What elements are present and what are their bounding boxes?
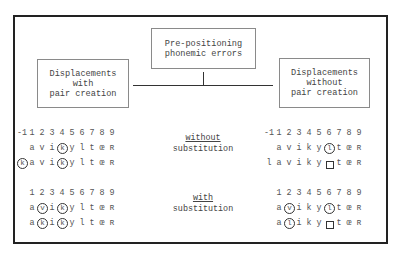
position-number: 4: [57, 127, 67, 139]
phoneme: œ: [344, 157, 354, 169]
position-number: 9: [107, 127, 117, 139]
left-node-line-3: pair creation: [49, 89, 116, 99]
phoneme: y: [67, 142, 77, 154]
phoneme: i: [294, 157, 304, 169]
root-node-line-2: phonemic errors: [165, 49, 242, 59]
phoneme: y: [314, 217, 324, 229]
position-number: 2: [37, 127, 47, 139]
empty-slot-square: [326, 221, 334, 229]
phoneme: l: [264, 157, 274, 169]
phoneme: ʀ: [107, 217, 117, 229]
phoneme: œ: [97, 142, 107, 154]
phoneme: ʀ: [354, 202, 364, 214]
position-number: 1: [274, 187, 284, 199]
phoneme: k: [304, 142, 314, 154]
phoneme: t: [334, 217, 344, 229]
phoneme: a: [274, 202, 284, 214]
phoneme: i: [294, 217, 304, 229]
position-number: 9: [354, 127, 364, 139]
phoneme: y: [67, 202, 77, 214]
position-number: 9: [354, 187, 364, 199]
phoneme: a: [274, 142, 284, 154]
label-without-key: without: [158, 133, 248, 144]
phoneme: ʀ: [107, 202, 117, 214]
phoneme: l: [77, 217, 87, 229]
label-with-key: with: [158, 193, 248, 204]
phoneme: a: [27, 202, 37, 214]
position-number: 3: [294, 187, 304, 199]
phoneme: t: [87, 202, 97, 214]
position-number: 3: [47, 187, 57, 199]
left-node-line-2: with: [73, 79, 94, 89]
phoneme: k: [304, 157, 314, 169]
phoneme: v: [284, 142, 294, 154]
position-number: 4: [57, 187, 67, 199]
position-number: 4: [304, 127, 314, 139]
phoneme: v: [284, 157, 294, 169]
connector-horizontal: [133, 85, 273, 86]
position-number: 6: [77, 127, 87, 139]
phoneme: ʀ: [354, 217, 364, 229]
phoneme: ʀ: [354, 142, 364, 154]
phoneme: l: [77, 202, 87, 214]
root-node-box: Pre-positioning phonemic errors: [151, 28, 256, 69]
phoneme: y: [314, 157, 324, 169]
phoneme: a: [27, 157, 37, 169]
phoneme: œ: [344, 202, 354, 214]
phoneme: k: [304, 202, 314, 214]
position-number: -1: [264, 127, 274, 139]
right-node-line-1: Displacements: [291, 68, 358, 78]
phoneme: a: [274, 157, 284, 169]
phoneme: t: [334, 202, 344, 214]
phoneme: y: [314, 202, 324, 214]
position-number: 8: [97, 187, 107, 199]
phoneme: v: [37, 142, 47, 154]
position-number: 5: [67, 187, 77, 199]
phoneme: œ: [97, 157, 107, 169]
phoneme: i: [294, 202, 304, 214]
phoneme: œ: [97, 202, 107, 214]
position-number: 2: [37, 187, 47, 199]
phoneme: t: [87, 217, 97, 229]
phoneme: ʀ: [107, 142, 117, 154]
position-number: 7: [334, 127, 344, 139]
phoneme: œ: [344, 142, 354, 154]
phoneme: l: [77, 157, 87, 169]
position-number: 8: [344, 187, 354, 199]
position-number: 2: [284, 187, 294, 199]
root-node-line-1: Pre-positioning: [165, 39, 242, 49]
right-node-line-2: without: [306, 78, 342, 88]
phoneme: a: [27, 217, 37, 229]
position-number: 6: [324, 127, 334, 139]
phoneme: ʀ: [354, 157, 364, 169]
empty-slot-square: [326, 161, 334, 169]
phoneme: y: [67, 157, 77, 169]
phoneme: ʀ: [107, 157, 117, 169]
phoneme: t: [334, 157, 344, 169]
phoneme: a: [27, 142, 37, 154]
phoneme: k: [304, 217, 314, 229]
position-number: 1: [274, 127, 284, 139]
position-number: 7: [87, 127, 97, 139]
phoneme: œ: [97, 217, 107, 229]
phoneme: t: [334, 142, 344, 154]
position-number: 2: [284, 127, 294, 139]
label-with-substitution: with substitution: [158, 193, 248, 215]
position-number: 3: [47, 127, 57, 139]
phoneme: v: [37, 157, 47, 169]
phoneme: t: [87, 142, 97, 154]
position-number: 5: [314, 187, 324, 199]
phoneme: i: [294, 142, 304, 154]
phoneme: y: [67, 217, 77, 229]
right-node-line-3: pair creation: [291, 88, 358, 98]
phoneme: t: [87, 157, 97, 169]
position-number: 9: [107, 187, 117, 199]
right-node-box: Displacements without pair creation: [279, 58, 370, 108]
left-node-box: Displacements with pair creation: [37, 59, 129, 108]
position-number: 4: [304, 187, 314, 199]
phoneme: i: [47, 217, 57, 229]
label-with-rest: substitution: [158, 204, 248, 215]
position-number: 1: [27, 127, 37, 139]
connector-vertical: [203, 72, 204, 85]
phoneme: œ: [344, 217, 354, 229]
